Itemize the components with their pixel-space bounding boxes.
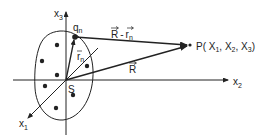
x3-label: x3 bbox=[54, 8, 63, 21]
svg-text:R: R bbox=[129, 64, 136, 75]
qn-label: qn bbox=[73, 22, 83, 34]
rn-label: rn bbox=[77, 51, 84, 63]
difference-vector-label: R-rn bbox=[111, 27, 134, 42]
svg-text:rn: rn bbox=[77, 51, 84, 63]
charge-distribution-diagram: x3 x2 x1 S qn rn R-rn R P( X1, X2, X3) bbox=[0, 0, 265, 135]
x2-label: x2 bbox=[233, 76, 242, 89]
point-p-label: P( X1, X2, X3) bbox=[196, 41, 255, 53]
field-point-p bbox=[188, 43, 191, 46]
x1-axis bbox=[28, 48, 98, 118]
svg-text:R-rn: R-rn bbox=[111, 29, 133, 41]
position-vector-rn bbox=[66, 40, 74, 80]
origin-label: S bbox=[68, 84, 75, 95]
R-label: R bbox=[129, 62, 137, 76]
field-vector-R bbox=[66, 46, 187, 80]
x1-label: x1 bbox=[19, 118, 28, 131]
point-charges bbox=[40, 43, 89, 110]
